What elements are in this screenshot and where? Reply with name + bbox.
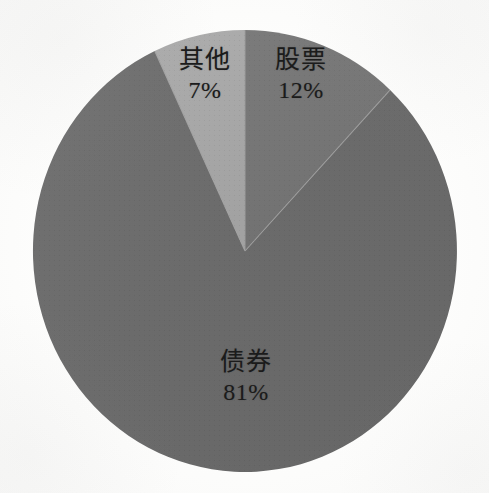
slice-label-bond-name: 债券 bbox=[197, 348, 295, 376]
slice-label-bond: 债券 81% bbox=[197, 348, 295, 406]
slice-label-stock-value: 12% bbox=[253, 77, 349, 104]
slice-label-other-value: 7% bbox=[159, 77, 251, 104]
scanned-page: 其他 7% 股票 12% 债券 81% bbox=[0, 0, 489, 493]
slice-label-bond-value: 81% bbox=[197, 379, 295, 406]
slice-label-stock: 股票 12% bbox=[253, 46, 349, 104]
pie-chart-figure: 其他 7% 股票 12% 债券 81% bbox=[0, 0, 489, 493]
slice-label-stock-name: 股票 bbox=[253, 46, 349, 74]
slice-label-other: 其他 7% bbox=[159, 46, 251, 104]
slice-label-other-name: 其他 bbox=[159, 46, 251, 74]
